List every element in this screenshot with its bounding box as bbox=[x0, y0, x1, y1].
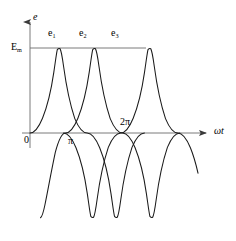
amplitude-label: Em bbox=[11, 42, 22, 53]
y-axis-label: e bbox=[33, 12, 37, 22]
amplitude-label-subscript: m bbox=[17, 46, 22, 53]
curve-label-e1: e1 bbox=[48, 28, 56, 39]
curve-label-e2: e2 bbox=[79, 28, 87, 39]
x-tick-label-0: 0 bbox=[24, 135, 29, 145]
x-axis-label: ωt bbox=[214, 126, 224, 136]
curve-label-e2-subscript: 2 bbox=[83, 32, 86, 39]
x-tick-label-2pi: 2π bbox=[120, 117, 130, 127]
curve-label-e3-subscript: 3 bbox=[115, 32, 118, 39]
curve-label-e3: e3 bbox=[111, 28, 119, 39]
curve-label-e1-subscript: 1 bbox=[52, 32, 55, 39]
three-phase-emf-waveform-figure: e Em e1 e2 e3 0 π 2π ωt bbox=[0, 0, 236, 241]
x-tick-label-pi: π bbox=[68, 136, 73, 146]
